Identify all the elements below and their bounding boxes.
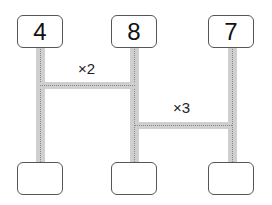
vertical-line-right — [228, 47, 237, 162]
horizontal-connector-2 — [135, 122, 232, 129]
top-box-right: 7 — [208, 15, 254, 48]
top-box-left: 4 — [17, 15, 63, 48]
bottom-box-left[interactable] — [17, 162, 63, 195]
connector-label-2: ×3 — [173, 99, 190, 116]
vertical-line-middle — [130, 47, 139, 162]
bottom-box-middle[interactable] — [111, 162, 157, 195]
top-box-middle: 8 — [111, 15, 157, 48]
bottom-box-right[interactable] — [208, 162, 254, 195]
connector-label-1: ×2 — [78, 60, 95, 77]
horizontal-connector-1 — [40, 82, 135, 89]
vertical-line-left — [36, 47, 45, 162]
